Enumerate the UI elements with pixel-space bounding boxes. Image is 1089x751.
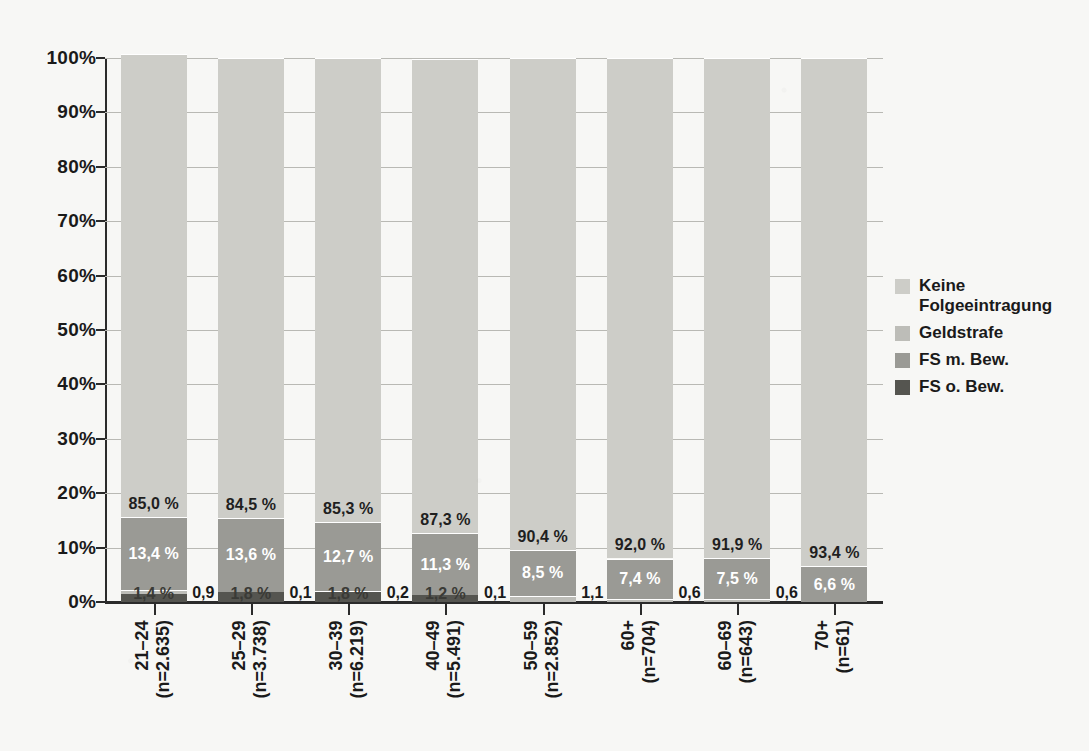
y-axis-labels: 0%10%20%30%40%50%60%70%80%90%100% xyxy=(0,58,96,602)
bar-column[interactable]: 13,6 %84,5 % xyxy=(218,58,284,602)
bar-segment[interactable]: 85,0 % xyxy=(121,54,187,516)
x-axis-tick xyxy=(543,602,545,615)
y-axis-tick xyxy=(96,275,105,277)
segment-value-label: 11,3 % xyxy=(421,556,471,574)
legend-item[interactable]: FS o. Bew. xyxy=(895,377,1085,397)
y-axis-tick-label: 30% xyxy=(57,428,96,450)
x-axis-category-label: 30–39(n=6.219) xyxy=(326,620,367,699)
bar-segment[interactable]: 7,5 % xyxy=(704,558,770,599)
bar-segment[interactable]: 90,4 % xyxy=(510,58,576,550)
bar-segment[interactable]: 93,4 % xyxy=(801,58,867,566)
category-range: 50–59 xyxy=(521,620,542,699)
plot-area: 13,4 %85,0 %0,9 %1,4 %13,6 %84,5 %0,1 %1… xyxy=(105,58,883,602)
bar-segment[interactable]: 13,6 % xyxy=(218,518,284,592)
category-range: 25–29 xyxy=(229,620,250,699)
x-axis-tick xyxy=(154,602,156,615)
y-axis-tick xyxy=(96,383,105,385)
segment-value-label: 92,0 % xyxy=(615,536,665,554)
segment-value-label: 84,5 % xyxy=(226,496,276,514)
bar-segment[interactable]: 85,3 % xyxy=(315,58,381,522)
bar-column[interactable]: 6,6 %93,4 % xyxy=(801,58,867,602)
category-sample-size: (n=2.852) xyxy=(541,620,562,699)
x-axis-category-labels: 21–24(n=2.635)25–29(n=3.738)30–39(n=6.21… xyxy=(105,620,883,745)
legend-swatch-icon xyxy=(895,353,910,368)
segment-value-label: 8,5 % xyxy=(522,564,563,582)
segment-value-label: 93,4 % xyxy=(809,544,859,562)
legend-swatch-icon xyxy=(895,279,910,294)
bar-segment[interactable]: 7,4 % xyxy=(607,559,673,599)
bar-segment[interactable]: 84,5 % xyxy=(218,58,284,518)
x-axis-tick xyxy=(348,602,350,615)
segment-value-label-baseline: 1,8 % xyxy=(230,585,271,603)
x-axis-category-label: 70+(n=61) xyxy=(812,620,853,674)
x-axis-category-label: 50–59(n=2.852) xyxy=(521,620,562,699)
legend-swatch-icon xyxy=(895,326,910,341)
x-axis-ticks xyxy=(105,602,883,616)
y-axis-tick-label: 20% xyxy=(57,482,96,504)
y-axis-tick-label: 80% xyxy=(57,156,96,178)
x-axis-category-label: 40–49(n=5.491) xyxy=(423,620,464,699)
y-axis-tick xyxy=(96,166,105,168)
legend-item[interactable]: Geldstrafe xyxy=(895,323,1085,343)
x-axis-tick xyxy=(834,602,836,615)
bar-column[interactable]: 7,4 %92,0 % xyxy=(607,58,673,602)
bar-column[interactable]: 8,5 %90,4 % xyxy=(510,58,576,602)
category-range: 70+ xyxy=(812,620,833,674)
chart-page: 0%10%20%30%40%50%60%70%80%90%100% 13,4 %… xyxy=(0,0,1089,751)
segment-value-label: 13,4 % xyxy=(128,545,178,563)
category-sample-size: (n=5.491) xyxy=(444,620,465,699)
y-axis-tick-label: 0% xyxy=(68,591,96,613)
bar-segment[interactable]: 6,6 % xyxy=(801,566,867,602)
segment-value-label: 85,0 % xyxy=(128,495,178,513)
legend-swatch-icon xyxy=(895,380,910,395)
bar-segment[interactable]: 91,9 % xyxy=(704,58,770,558)
x-axis-tick xyxy=(737,602,739,615)
y-axis-tick xyxy=(96,329,105,331)
y-axis-tick xyxy=(96,111,105,113)
y-axis-tick-label: 60% xyxy=(57,265,96,287)
x-axis-tick xyxy=(251,602,253,615)
y-axis-tick-label: 100% xyxy=(47,47,96,69)
category-sample-size: (n=2.635) xyxy=(152,620,173,699)
x-axis-tick xyxy=(640,602,642,615)
segment-value-label-baseline: 1,4 % xyxy=(133,585,174,603)
segment-value-label: 7,5 % xyxy=(716,570,757,588)
category-range: 21–24 xyxy=(132,620,153,699)
segment-value-label: 85,3 % xyxy=(323,500,373,518)
segment-value-label: 12,7 % xyxy=(323,548,373,566)
y-axis-tick-label: 10% xyxy=(57,537,96,559)
bar-column[interactable]: 11,3 %87,3 % xyxy=(412,58,478,602)
legend-item[interactable]: FS m. Bew. xyxy=(895,350,1085,370)
category-range: 40–49 xyxy=(423,620,444,699)
x-axis-category-label: 60–69(n=643) xyxy=(715,620,756,684)
bar-segment[interactable]: 87,3 % xyxy=(412,59,478,534)
bar-column[interactable]: 7,5 %91,9 % xyxy=(704,58,770,602)
segment-value-label: 13,6 % xyxy=(226,546,276,564)
bar-column[interactable]: 13,4 %85,0 % xyxy=(121,58,187,602)
bar-segment[interactable]: 8,5 % xyxy=(510,550,576,596)
segment-value-label: 91,9 % xyxy=(712,536,762,554)
x-axis-tick xyxy=(445,602,447,615)
y-axis-tick-label: 90% xyxy=(57,101,96,123)
category-sample-size: (n=704) xyxy=(639,620,660,684)
y-axis-tick xyxy=(96,601,105,603)
category-range: 60+ xyxy=(618,620,639,684)
bar-segment[interactable]: 12,7 % xyxy=(315,522,381,591)
bar-segment[interactable]: 13,4 % xyxy=(121,517,187,590)
legend-item[interactable]: Keine Folgeeintragung xyxy=(895,276,1085,316)
y-axis-tick xyxy=(96,438,105,440)
y-axis-tick-label: 40% xyxy=(57,373,96,395)
y-axis-tick xyxy=(96,492,105,494)
category-range: 60–69 xyxy=(715,620,736,684)
legend-label: Geldstrafe xyxy=(919,323,1003,343)
y-axis-tick-label: 70% xyxy=(57,210,96,232)
legend-label: Keine Folgeeintragung xyxy=(919,276,1069,316)
segment-value-label: 7,4 % xyxy=(619,570,660,588)
bar-column[interactable]: 12,7 %85,3 % xyxy=(315,58,381,602)
bar-segment[interactable]: 92,0 % xyxy=(607,58,673,558)
y-axis-tick xyxy=(96,220,105,222)
legend-label: FS m. Bew. xyxy=(919,350,1009,370)
bar-group: 13,4 %85,0 %0,9 %1,4 %13,6 %84,5 %0,1 %1… xyxy=(105,58,883,602)
segment-value-label-baseline: 1,8 % xyxy=(328,585,369,603)
y-axis-tick-label: 50% xyxy=(57,319,96,341)
